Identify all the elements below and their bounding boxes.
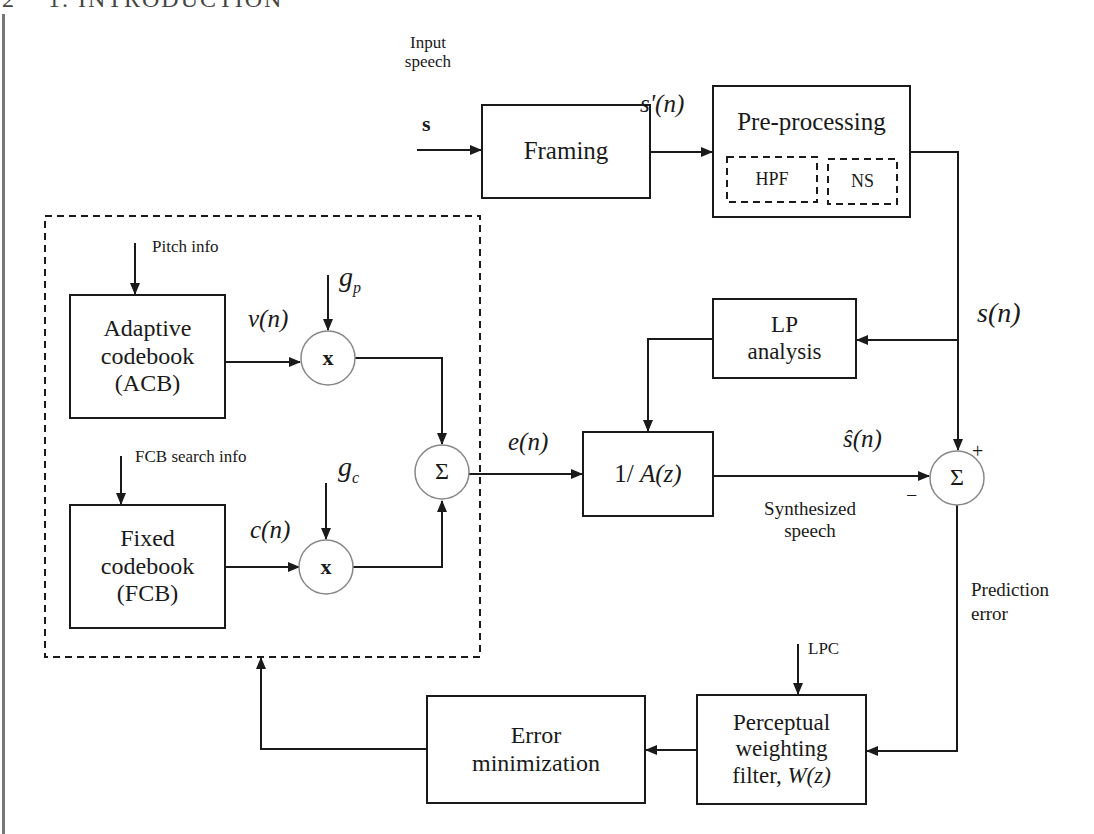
prediction-error-arrow: [867, 505, 957, 751]
input-symbol-s: s: [422, 112, 431, 136]
acb-label: Adaptive codebook (ACB): [70, 295, 225, 418]
hpf-label: HPF: [727, 157, 817, 202]
synthesis-filter-label: 1/ A(z): [583, 432, 713, 516]
sum-icon-excitation: Σ: [415, 445, 469, 499]
lp-analysis-label: LP analysis: [713, 299, 856, 378]
lp-to-synth-arrow: [648, 339, 713, 431]
synthesized-speech-label: Synthesized speech: [755, 495, 865, 545]
preprocessing-label: Pre-processing: [713, 108, 910, 136]
pitch-info-label: Pitch info: [152, 238, 219, 257]
s-hat-label: ŝ(n): [843, 425, 882, 453]
multiply-icon-fcb: x: [299, 540, 353, 594]
feedback-arrow: [261, 658, 427, 749]
s-n-label: s(n): [977, 298, 1021, 329]
multiply-icon-acb: x: [301, 331, 355, 385]
s-n-line: [910, 152, 958, 450]
e-n-label: e(n): [508, 428, 548, 456]
gc-label: gc: [338, 452, 359, 486]
c-n-label: c(n): [250, 516, 290, 544]
minus-sign: −: [906, 484, 917, 506]
acb-gain-to-sum-arrow: [355, 358, 442, 444]
fcb-search-info-label: FCB search info: [135, 448, 246, 467]
fcb-label: Fixed codebook (FCB): [70, 505, 225, 628]
gp-label: gp: [339, 262, 361, 296]
ns-label: NS: [828, 159, 897, 204]
fcb-gain-to-sum-arrow: [353, 501, 442, 567]
error-minimization-label: Error minimization: [427, 696, 645, 803]
plus-sign: +: [972, 440, 983, 462]
lpc-label: LPC: [808, 640, 839, 659]
input-speech-label: Input speech: [403, 34, 453, 71]
prediction-error-label: Prediction error: [971, 578, 1049, 626]
perceptual-weighting-label: Perceptual weighting filter, W(z): [697, 695, 866, 804]
framing-label: Framing: [482, 105, 650, 198]
v-n-label: v(n): [248, 305, 288, 333]
